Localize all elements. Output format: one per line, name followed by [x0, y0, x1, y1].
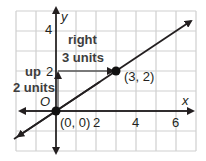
- x-axis-label: x: [181, 93, 189, 108]
- point-3-2: [112, 67, 121, 76]
- run-label-1: right: [68, 32, 98, 47]
- run-label-2: 3 units: [62, 50, 104, 65]
- x-tick-6: 6: [172, 115, 179, 130]
- y-tick-4: 4: [45, 22, 52, 37]
- x-tick-4: 4: [132, 115, 139, 130]
- origin-label: O: [40, 94, 50, 109]
- point-origin-label: (0, 0): [60, 115, 90, 130]
- coordinate-graph: y x O 4 2 2 4 6 (0, 0) (3, 2) up 2 units…: [0, 0, 206, 161]
- x-tick-2: 2: [93, 115, 100, 130]
- y-tick-2: 2: [46, 64, 53, 79]
- rise-label-1: up: [25, 64, 41, 79]
- rise-label-2: 2 units: [13, 80, 55, 95]
- point-3-2-label: (3, 2): [124, 69, 154, 84]
